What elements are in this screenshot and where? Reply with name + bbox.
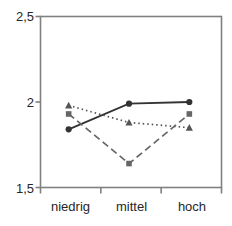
data-point-square-2 — [187, 111, 193, 117]
data-point-circle-2 — [186, 99, 192, 105]
data-point-circle-0 — [66, 126, 72, 132]
data-point-square-0 — [66, 111, 72, 117]
data-point-square-1 — [126, 161, 132, 167]
data-point-triangle-1 — [125, 119, 132, 126]
data-point-circle-1 — [126, 101, 132, 107]
plot-area — [0, 0, 232, 226]
data-point-triangle-2 — [186, 124, 193, 131]
series-layer — [65, 99, 193, 166]
data-point-triangle-0 — [65, 102, 72, 109]
chart-container: 2,5 2 1,5 niedrig mittel hoch — [0, 0, 232, 226]
x-axis-ticks — [41, 188, 222, 194]
